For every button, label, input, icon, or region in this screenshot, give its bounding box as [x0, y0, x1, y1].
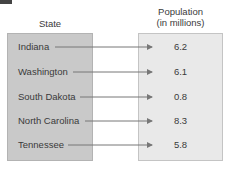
- population-value: 5.8: [138, 139, 223, 151]
- population-value: 6.1: [138, 66, 223, 78]
- population-value: 8.3: [138, 115, 223, 127]
- state-label: South Dakota: [18, 91, 76, 103]
- state-label: Tennessee: [18, 139, 64, 151]
- state-label: Indiana: [18, 41, 49, 53]
- population-value: 6.2: [138, 41, 223, 53]
- population-value: 0.8: [138, 91, 223, 103]
- state-label: Washington: [18, 66, 68, 78]
- state-label: North Carolina: [18, 115, 79, 127]
